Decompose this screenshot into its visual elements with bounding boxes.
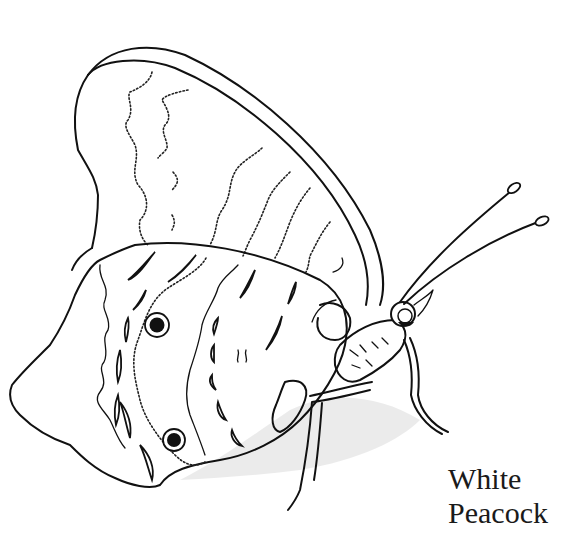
- stipple-shadow: [180, 398, 420, 480]
- caption-line-1: White: [448, 462, 548, 496]
- forewing: [72, 48, 383, 305]
- caption-line-2: Peacock: [448, 496, 548, 530]
- eyespot-upper: [145, 313, 169, 337]
- species-caption: White Peacock: [448, 462, 548, 530]
- eyespot-lower: [163, 429, 185, 451]
- butterfly-illustration: [0, 0, 577, 541]
